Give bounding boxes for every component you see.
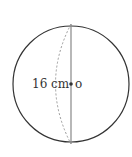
center-point	[69, 82, 73, 86]
center-label: o	[75, 77, 82, 91]
sphere-diagram: 16 cm o	[0, 0, 132, 157]
diameter-label: 16 cm	[32, 77, 70, 91]
